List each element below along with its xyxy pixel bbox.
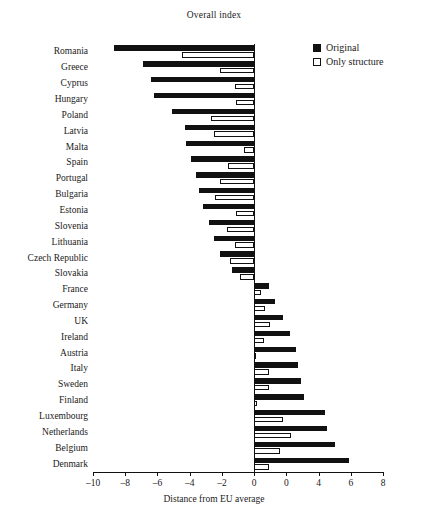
chart-bar-row xyxy=(93,440,383,456)
x-axis-tick xyxy=(254,472,255,476)
bar-original xyxy=(254,362,298,367)
x-axis-tick xyxy=(286,472,287,476)
chart-bar-row xyxy=(93,393,383,409)
bar-only-structure xyxy=(214,131,254,136)
chart-bar-row xyxy=(93,409,383,425)
bar-original xyxy=(254,283,269,288)
chart-bar-row xyxy=(93,377,383,393)
category-axis-labels: RomaniaGreeceCyprusHungaryPolandLatviaMa… xyxy=(0,44,88,472)
category-label: Germany xyxy=(0,300,88,310)
category-label: Finland xyxy=(0,395,88,405)
chart-bar-row xyxy=(93,92,383,108)
bar-original xyxy=(199,188,254,193)
bar-only-structure xyxy=(254,322,270,327)
chart-bar-row xyxy=(93,218,383,234)
bar-only-structure xyxy=(211,116,255,121)
bar-only-structure xyxy=(240,274,255,279)
bar-original xyxy=(209,220,254,225)
chart-bar-row xyxy=(93,250,383,266)
chart-bar-row xyxy=(93,298,383,314)
x-axis-tick-label: 8 xyxy=(368,478,398,489)
x-axis-tick xyxy=(125,472,126,476)
bar-original xyxy=(196,172,254,177)
x-axis-tick-label: 0 xyxy=(271,478,301,489)
bar-only-structure xyxy=(254,369,269,374)
bar-original xyxy=(151,77,254,82)
category-label: Hungary xyxy=(0,94,88,104)
chart-bar-row xyxy=(93,187,383,203)
bar-only-structure xyxy=(227,227,254,232)
bar-original xyxy=(254,442,335,447)
category-label: Italy xyxy=(0,363,88,373)
bar-only-structure xyxy=(254,353,256,358)
chart-container: Overall index Original Only structure Ro… xyxy=(0,0,428,524)
bar-only-structure xyxy=(215,195,254,200)
bar-original xyxy=(186,141,254,146)
category-label: Poland xyxy=(0,110,88,120)
x-axis-tick xyxy=(319,472,320,476)
chart-bar-row xyxy=(93,456,383,472)
chart-bar-row xyxy=(93,266,383,282)
category-label: Austria xyxy=(0,348,88,358)
x-axis-tick xyxy=(190,472,191,476)
bar-original xyxy=(191,156,254,161)
x-axis-tick-label: 4 xyxy=(304,478,334,489)
category-label: Bulgaria xyxy=(0,189,88,199)
category-label: Latvia xyxy=(0,126,88,136)
chart-bar-row xyxy=(93,424,383,440)
bar-only-structure xyxy=(244,147,254,152)
chart-bar-row xyxy=(93,60,383,76)
chart-bar-row xyxy=(93,203,383,219)
bar-only-structure xyxy=(254,338,264,343)
bar-only-structure xyxy=(230,258,254,263)
bar-only-structure xyxy=(254,448,280,453)
bar-original xyxy=(185,125,254,130)
bar-only-structure xyxy=(235,84,254,89)
category-label: Slovenia xyxy=(0,221,88,231)
x-axis-tick-label: –2 xyxy=(207,478,237,489)
category-label: UK xyxy=(0,316,88,326)
category-label: France xyxy=(0,284,88,294)
category-label: Czech Republic xyxy=(0,253,88,263)
x-axis-tick-label: –4 xyxy=(175,478,205,489)
bar-original xyxy=(220,251,254,256)
bar-original xyxy=(254,347,296,352)
bar-only-structure xyxy=(254,433,291,438)
bar-only-structure xyxy=(182,52,255,57)
chart-bar-row xyxy=(93,361,383,377)
bar-only-structure xyxy=(254,417,283,422)
category-label: Belgium xyxy=(0,443,88,453)
category-label: Estonia xyxy=(0,205,88,215)
bar-original xyxy=(203,204,255,209)
bar-only-structure xyxy=(220,179,254,184)
chart-bar-row xyxy=(93,44,383,60)
bar-original xyxy=(232,267,255,272)
chart-bar-row xyxy=(93,234,383,250)
x-axis-tick-label: 0 xyxy=(239,478,269,489)
x-axis-tick-label: –10 xyxy=(78,478,108,489)
bar-original xyxy=(254,315,283,320)
x-axis-tick xyxy=(222,472,223,476)
x-axis-tick-label: –6 xyxy=(142,478,172,489)
category-label: Greece xyxy=(0,62,88,72)
bar-original xyxy=(254,331,289,336)
chart-bar-row xyxy=(93,76,383,92)
chart-bar-row xyxy=(93,282,383,298)
category-label: Netherlands xyxy=(0,427,88,437)
chart-bar-row xyxy=(93,139,383,155)
plot-area xyxy=(93,44,383,472)
bar-only-structure xyxy=(254,401,257,406)
bar-original xyxy=(254,299,275,304)
bar-only-structure xyxy=(254,464,269,469)
chart-bar-row xyxy=(93,155,383,171)
category-label: Cyprus xyxy=(0,78,88,88)
bar-original xyxy=(254,394,304,399)
bar-original xyxy=(114,45,254,50)
bar-only-structure xyxy=(254,306,265,311)
x-axis-tick xyxy=(93,472,94,476)
chart-bar-row xyxy=(93,123,383,139)
bar-original xyxy=(214,236,254,241)
bar-original xyxy=(172,109,254,114)
bar-only-structure xyxy=(220,68,254,73)
chart-bar-row xyxy=(93,171,383,187)
